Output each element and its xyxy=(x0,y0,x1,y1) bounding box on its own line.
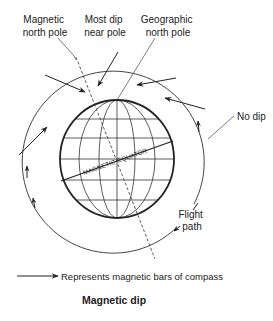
magnetic-north-pole-label: Magnetic north pole xyxy=(23,14,68,38)
geographic-north-pole-label: Geographic north pole xyxy=(141,14,195,38)
geographic-north-pole-leader xyxy=(117,38,155,100)
magnetic-north-pole-leader xyxy=(58,38,76,60)
most-dip-label: Most dip near pole xyxy=(84,14,126,38)
no-dip-label: No dip xyxy=(237,111,266,122)
diagram-title: Magnetic dip xyxy=(82,294,146,306)
magnetic-equator-label: MAGNETIC EQUATOR xyxy=(82,147,148,176)
arrow-icon xyxy=(165,98,205,109)
arrow-icon xyxy=(137,78,176,85)
globe: MAGNETIC EQUATOR xyxy=(55,100,180,218)
no-dip-leader xyxy=(208,116,234,139)
flight-path-label: Flight path xyxy=(178,209,205,232)
legend: Represents magnetic bars of compass xyxy=(17,271,223,282)
magnetic-dip-diagram: MAGNETIC EQUATOR Magnetic north pole Mos… xyxy=(0,0,273,321)
arrow-icon xyxy=(98,52,118,86)
arrow-icon xyxy=(19,127,47,155)
compass-bar-arrows xyxy=(19,52,205,155)
legend-text: Represents magnetic bars of compass xyxy=(61,271,223,282)
